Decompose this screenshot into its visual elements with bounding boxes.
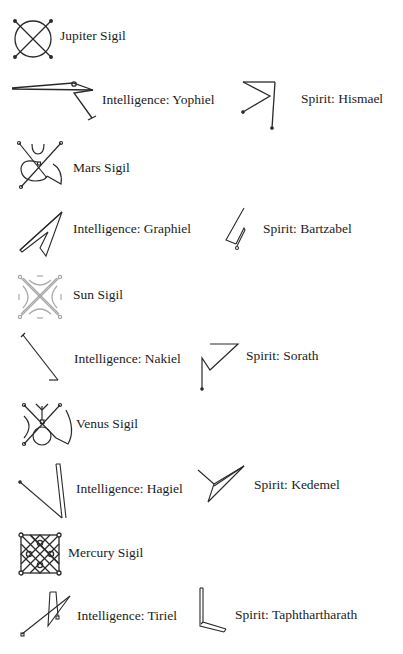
graphiel-sigil-icon <box>18 210 66 258</box>
venus-sigil-label: Venus Sigil <box>76 416 138 432</box>
venus-sigil-icon <box>20 402 72 450</box>
bartzabel-sigil-icon <box>224 208 248 256</box>
taphthartharath-sigil-icon <box>198 586 228 632</box>
nakiel-sigil-icon <box>20 332 62 384</box>
taphthartharath-label: Spirit: Taphthartharath <box>235 607 357 623</box>
hagiel-sigil-icon <box>18 462 70 520</box>
graphiel-label: Intelligence: Graphiel <box>73 221 191 237</box>
jupiter-sigil-icon <box>8 14 58 64</box>
nakiel-label: Intelligence: Nakiel <box>74 351 181 367</box>
mars-sigil-icon <box>15 140 65 192</box>
mars-sigil-label: Mars Sigil <box>73 160 130 176</box>
tiriel-sigil-icon <box>20 590 74 638</box>
yophiel-label: Intelligence: Yophiel <box>102 92 214 108</box>
hagiel-label: Intelligence: Hagiel <box>76 481 183 497</box>
tiriel-label: Intelligence: Tiriel <box>77 608 177 624</box>
hismael-label: Spirit: Hismael <box>301 91 383 107</box>
sun-sigil-label: Sun Sigil <box>73 287 123 303</box>
sorath-label: Spirit: Sorath <box>246 348 318 364</box>
jupiter-sigil-label: Jupiter Sigil <box>60 28 126 44</box>
mercury-sigil-label: Mercury Sigil <box>68 545 143 561</box>
yophiel-sigil-icon <box>12 80 102 122</box>
kedemel-label: Spirit: Kedemel <box>254 477 340 493</box>
sun-sigil-icon <box>17 274 63 320</box>
mercury-sigil-icon <box>18 532 62 576</box>
sorath-sigil-icon <box>200 342 242 394</box>
kedemel-sigil-icon <box>196 464 246 506</box>
bartzabel-label: Spirit: Bartzabel <box>263 221 352 237</box>
hismael-sigil-icon <box>241 80 289 130</box>
